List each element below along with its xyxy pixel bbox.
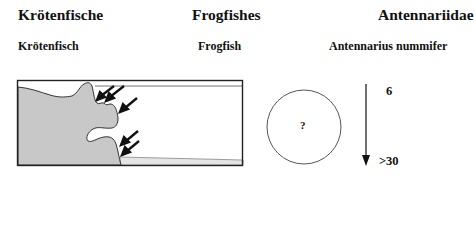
depth-max-label: >30 <box>379 154 399 169</box>
depth-arrow-icon <box>362 84 370 166</box>
depth-min-label: 6 <box>386 84 392 99</box>
arrow-icon <box>106 86 124 101</box>
reef-profile <box>18 83 121 165</box>
size-unknown-symbol: ? <box>300 119 306 131</box>
habitat-diagram <box>18 81 244 166</box>
arrow-icon <box>120 98 137 112</box>
sand-floor <box>120 157 243 165</box>
